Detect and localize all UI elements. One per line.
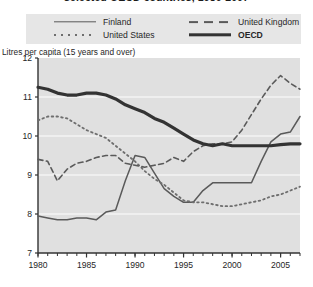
x-tick-label: 1995 bbox=[174, 260, 193, 270]
y-tick-label: 8 bbox=[27, 209, 32, 219]
x-tick-label: 1990 bbox=[125, 260, 144, 270]
chart-svg: 789101112198019851990199520002005 bbox=[0, 0, 313, 287]
y-tick-label: 12 bbox=[22, 53, 32, 63]
x-tick-label: 2005 bbox=[271, 260, 290, 270]
chart-container: selected OECD countries, 1980-2007 Finla… bbox=[0, 0, 313, 287]
y-tick-label: 10 bbox=[22, 131, 32, 141]
y-tick-label: 7 bbox=[27, 248, 32, 258]
x-tick-label: 2000 bbox=[223, 260, 242, 270]
plot-background bbox=[38, 58, 300, 253]
y-tick-label: 11 bbox=[23, 92, 32, 102]
x-tick-label: 1985 bbox=[77, 260, 96, 270]
plot-area: 789101112198019851990199520002005 bbox=[0, 0, 313, 287]
y-tick-label: 9 bbox=[27, 170, 32, 180]
x-tick-label: 1980 bbox=[28, 260, 47, 270]
